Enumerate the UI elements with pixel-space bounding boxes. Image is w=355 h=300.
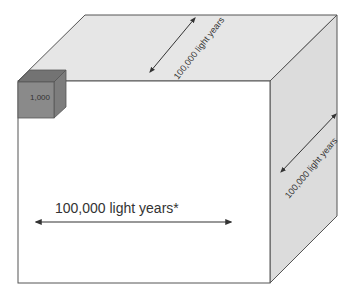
small-cube: 1,000 (18, 70, 66, 118)
cube-diagram: 1,000 100,000 light years 100,000 light … (0, 0, 355, 300)
small-cube-label: 1,000 (30, 93, 51, 102)
diagram-canvas: 1,000 100,000 light years 100,000 light … (0, 0, 355, 300)
width-label: 100,000 light years* (55, 200, 179, 216)
